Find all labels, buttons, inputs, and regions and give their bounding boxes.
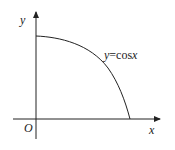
origin-label: O bbox=[24, 121, 33, 135]
curve-label-arg: x bbox=[131, 48, 138, 62]
curve-label-eq: =cos bbox=[109, 48, 132, 62]
y-axis-label: y bbox=[19, 13, 26, 27]
cosine-graph: y x O y=cosx bbox=[0, 0, 175, 150]
curve-label: y=cosx bbox=[103, 48, 138, 62]
x-axis-label: x bbox=[148, 123, 155, 137]
